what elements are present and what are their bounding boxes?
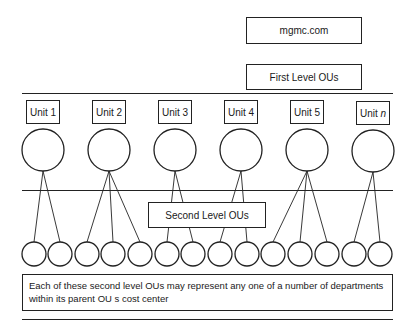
- second-level-node: [75, 242, 99, 266]
- second-level-node: [155, 242, 179, 266]
- note-line-1: Each of these second level OUs may repre…: [29, 279, 386, 292]
- bottom-divider: [22, 319, 393, 320]
- unit-node-4: [220, 129, 262, 171]
- second-level-node: [22, 242, 46, 266]
- second-level-node: [315, 242, 339, 266]
- second-level-divider: [22, 190, 393, 191]
- second-level-node: [288, 242, 312, 266]
- second-level-node: [208, 242, 232, 266]
- note-line-2: within its parent OU s cost center: [29, 292, 386, 305]
- description-note: Each of these second level OUs may repre…: [22, 274, 393, 311]
- unit-node-n: [352, 130, 394, 172]
- second-level-node: [128, 242, 152, 266]
- second-level-node: [261, 242, 285, 266]
- unit-node-5: [286, 129, 328, 171]
- unit-node-1: [22, 129, 64, 171]
- second-level-node: [101, 242, 125, 266]
- second-level-ous-box: Second Level OUs: [148, 202, 266, 228]
- second-level-node: [181, 242, 205, 266]
- second-level-ous-label: Second Level OUs: [165, 210, 248, 221]
- second-level-node: [342, 242, 366, 266]
- unit-node-3: [154, 129, 196, 171]
- second-level-node: [368, 242, 392, 266]
- second-level-node: [235, 242, 259, 266]
- unit-node-2: [88, 129, 130, 171]
- second-level-node: [48, 242, 72, 266]
